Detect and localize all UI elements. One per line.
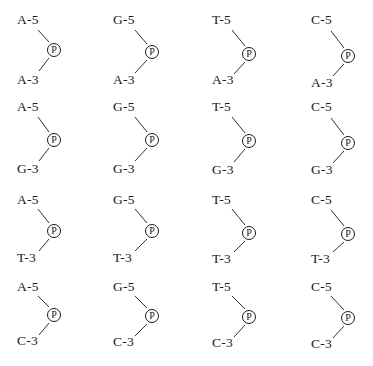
phosphate-circle-icon: P <box>242 310 256 324</box>
three-prime-label: G-3 <box>17 162 39 176</box>
diagram-cell-r1c2: G-5 P A-3 <box>113 13 193 93</box>
three-prime-label: A-3 <box>311 76 333 90</box>
diagram-cell-r3c1: A-5 P T-3 <box>17 193 97 273</box>
diagram-cell-r2c4: C-5 P G-3 <box>311 100 373 180</box>
phosphate-circle-icon: P <box>145 309 159 323</box>
diagram-cell-r3c3: T-5 P T-3 <box>212 193 292 273</box>
phosphate-circle-icon: P <box>47 43 61 57</box>
three-prime-label: T-3 <box>311 252 330 266</box>
phosphate-circle-icon: P <box>47 308 61 322</box>
three-prime-label: T-3 <box>212 252 231 266</box>
diagram-cell-r1c1: A-5 P A-3 <box>17 13 97 93</box>
dinucleotide-grid: A-5 P A-3 G-5 P A-3 T-5 P A-3 C-5 P A-3 … <box>0 0 373 366</box>
three-prime-label: C-3 <box>17 334 38 348</box>
three-prime-label: A-3 <box>17 73 39 87</box>
diagram-cell-r4c3: T-5 P C-3 <box>212 280 292 360</box>
three-prime-label: A-3 <box>113 73 135 87</box>
three-prime-label: T-3 <box>113 251 132 265</box>
three-prime-label: G-3 <box>113 162 135 176</box>
three-prime-label: G-3 <box>311 163 333 177</box>
diagram-cell-r4c1: A-5 P C-3 <box>17 280 97 360</box>
phosphate-circle-icon: P <box>341 311 355 325</box>
diagram-cell-r1c3: T-5 P A-3 <box>212 13 292 93</box>
phosphate-circle-icon: P <box>145 45 159 59</box>
three-prime-label: C-3 <box>212 336 233 350</box>
phosphate-circle-icon: P <box>341 136 355 150</box>
three-prime-label: T-3 <box>17 251 36 265</box>
phosphate-circle-icon: P <box>341 49 355 63</box>
three-prime-label: A-3 <box>212 73 234 87</box>
diagram-cell-r2c3: T-5 P G-3 <box>212 100 292 180</box>
phosphate-circle-icon: P <box>242 134 256 148</box>
diagram-cell-r2c1: A-5 P G-3 <box>17 100 97 180</box>
three-prime-label: C-3 <box>311 337 332 351</box>
diagram-cell-r1c4: C-5 P A-3 <box>311 13 373 93</box>
phosphate-circle-icon: P <box>47 133 61 147</box>
diagram-cell-r2c2: G-5 P G-3 <box>113 100 193 180</box>
phosphate-circle-icon: P <box>242 47 256 61</box>
diagram-cell-r4c2: G-5 P C-3 <box>113 280 193 360</box>
phosphate-circle-icon: P <box>145 224 159 238</box>
three-prime-label: C-3 <box>113 335 134 349</box>
diagram-cell-r4c4: C-5 P C-3 <box>311 280 373 360</box>
phosphate-circle-icon: P <box>145 133 159 147</box>
three-prime-label: G-3 <box>212 163 234 177</box>
phosphate-circle-icon: P <box>242 226 256 240</box>
phosphate-circle-icon: P <box>47 224 61 238</box>
diagram-cell-r3c4: C-5 P T-3 <box>311 193 373 273</box>
diagram-cell-r3c2: G-5 P T-3 <box>113 193 193 273</box>
phosphate-circle-icon: P <box>341 227 355 241</box>
